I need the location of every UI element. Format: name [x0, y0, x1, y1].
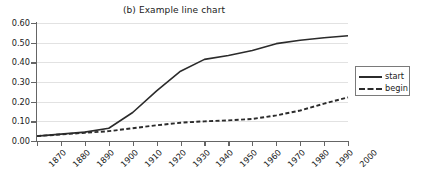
x-axis-tick [157, 141, 158, 146]
x-axis-tick-label: 1980 [310, 148, 331, 169]
legend: startbegin [355, 66, 410, 96]
line-chart: (b) Example line chart 0.000.100.200.300… [0, 0, 421, 178]
x-axis-tick [300, 141, 301, 146]
legend-label: begin [385, 84, 408, 92]
x-axis-tick [348, 141, 349, 146]
legend-item-begin[interactable]: begin [359, 83, 409, 95]
x-axis-tick [252, 141, 253, 146]
x-axis-tick [37, 141, 38, 146]
x-axis-tick-label: 1920 [167, 148, 188, 169]
x-axis-tick-label: 1950 [238, 148, 259, 169]
y-axis-tick [31, 121, 36, 122]
legend-label: start [385, 72, 404, 80]
x-axis-tick [61, 141, 62, 146]
x-axis-tick-label: 2000 [358, 148, 379, 169]
legend-swatch-icon [359, 88, 382, 90]
x-axis-tick-label: 1890 [95, 148, 116, 169]
x-axis-tick [85, 141, 86, 146]
x-axis-tick [204, 141, 205, 146]
x-axis-tick-label: 1880 [71, 148, 92, 169]
x-axis-tick [181, 141, 182, 146]
y-axis-tick [31, 82, 36, 83]
x-axis-tick [324, 141, 325, 146]
x-axis-tick-label: 1940 [215, 148, 236, 169]
y-axis-tick [31, 141, 36, 142]
x-axis-tick [228, 141, 229, 146]
y-axis-tick [31, 23, 36, 24]
x-axis-tick [133, 141, 134, 146]
x-axis-tick-label: 1990 [334, 148, 355, 169]
x-axis-tick-label: 1910 [143, 148, 164, 169]
legend-swatch-icon [359, 76, 382, 78]
x-axis-tick-label: 1870 [47, 148, 68, 169]
y-axis-tick [31, 43, 36, 44]
legend-item-start[interactable]: start [359, 71, 409, 83]
y-axis-tick [31, 102, 36, 103]
y-axis-tick [31, 62, 36, 63]
x-axis-tick-label: 1900 [119, 148, 140, 169]
x-axis-tick-label: 1960 [262, 148, 283, 169]
x-axis-tick [109, 141, 110, 146]
x-axis-tick-label: 1930 [191, 148, 212, 169]
x-axis-tick-label: 1970 [286, 148, 307, 169]
x-axis-tick [276, 141, 277, 146]
